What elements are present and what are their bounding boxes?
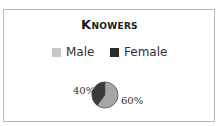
chart-legend: Male Female (0, 45, 219, 59)
chart-title: Knowers (0, 17, 219, 32)
pie-label-male: 60% (121, 95, 143, 106)
legend-item-male: Male (52, 45, 94, 59)
pie-label-female: 40% (73, 85, 95, 96)
legend-label-female: Female (124, 45, 167, 59)
legend-swatch-female (110, 48, 119, 57)
legend-swatch-male (52, 48, 61, 57)
legend-label-male: Male (66, 45, 94, 59)
legend-item-female: Female (110, 45, 167, 59)
